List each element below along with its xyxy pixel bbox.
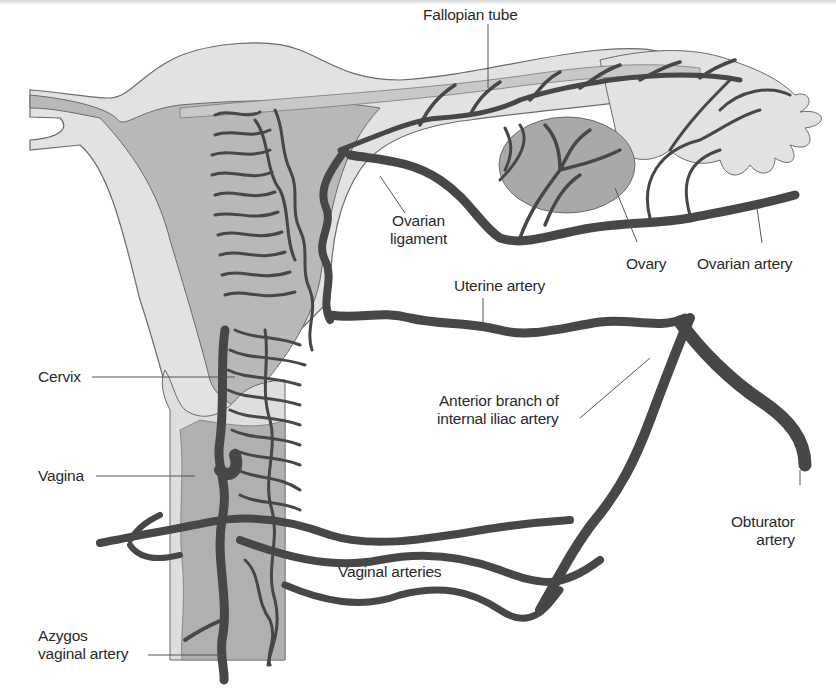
label-anterior-branch-line2: internal iliac artery — [437, 410, 559, 428]
label-ovarian-ligament-line1: Ovarian — [390, 212, 447, 230]
label-vagina: Vagina — [38, 467, 84, 485]
label-uterine-artery: Uterine artery — [454, 277, 545, 295]
label-ovarian-ligament-line2: ligament — [390, 230, 447, 248]
label-vaginal-arteries: Vaginal arteries — [338, 563, 441, 581]
label-fallopian-tube: Fallopian tube — [423, 6, 518, 24]
label-cervix: Cervix — [38, 368, 81, 386]
label-anterior-branch-line1: Anterior branch of — [437, 392, 559, 410]
label-obturator-line2: artery — [731, 531, 795, 549]
label-ovarian-artery: Ovarian artery — [697, 255, 792, 273]
label-azygos-line1: Azygos — [38, 627, 128, 645]
label-azygos-line2: vaginal artery — [38, 645, 128, 663]
label-azygos-vaginal-artery: Azygos vaginal artery — [38, 627, 128, 663]
label-obturator-line1: Obturator — [731, 513, 795, 531]
label-ovary: Ovary — [626, 255, 666, 273]
label-obturator-artery: Obturator artery — [731, 513, 795, 549]
label-ovarian-ligament: Ovarian ligament — [390, 212, 447, 248]
label-anterior-branch-internal-iliac: Anterior branch of internal iliac artery — [437, 392, 559, 428]
anatomy-diagram — [0, 0, 836, 695]
